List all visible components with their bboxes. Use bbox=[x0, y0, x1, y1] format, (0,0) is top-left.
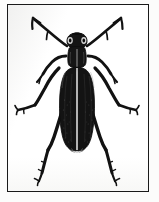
midleg-left bbox=[15, 68, 59, 115]
midleg-right bbox=[95, 68, 139, 115]
figure-root bbox=[0, 0, 159, 202]
hindleg-left bbox=[35, 108, 64, 186]
beetle-illustration bbox=[7, 4, 149, 192]
hindleg-right bbox=[91, 108, 120, 186]
left-antenna bbox=[32, 18, 67, 46]
right-antenna bbox=[87, 18, 123, 46]
pronotum bbox=[68, 47, 86, 68]
